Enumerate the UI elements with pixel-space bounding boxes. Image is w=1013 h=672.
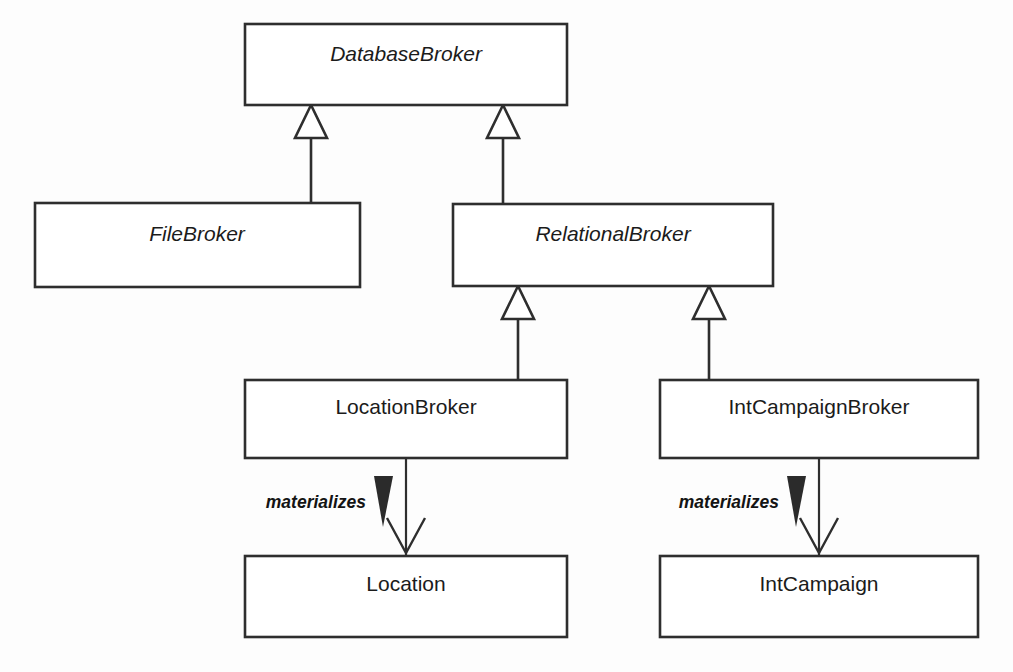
class-box-database-broker[interactable]: DatabaseBroker <box>245 24 567 105</box>
hollow-triangle-icon <box>295 105 327 138</box>
class-box-frame <box>453 204 773 286</box>
dependency-label: materializes <box>266 492 366 512</box>
class-name-label: IntCampaignBroker <box>729 395 910 418</box>
class-box-frame <box>35 203 360 287</box>
generalization-file-broker-to-database-broker[interactable] <box>295 105 327 203</box>
generalization-int-campaign-broker-to-relational-broker[interactable] <box>693 286 725 380</box>
class-box-file-broker[interactable]: FileBroker <box>35 203 360 287</box>
uml-diagram-svg: materializes materializes DatabaseBroker… <box>0 0 1013 672</box>
uml-class-diagram-canvas: materializes materializes DatabaseBroker… <box>0 0 1013 672</box>
hollow-triangle-icon <box>502 286 534 319</box>
hollow-triangle-icon <box>693 286 725 319</box>
hollow-triangle-icon <box>487 105 519 138</box>
class-box-location-broker[interactable]: LocationBroker <box>245 380 567 458</box>
class-name-label: DatabaseBroker <box>330 42 483 65</box>
class-box-frame <box>660 556 978 637</box>
class-box-int-campaign-broker[interactable]: IntCampaignBroker <box>660 380 978 458</box>
generalization-relational-broker-to-database-broker[interactable] <box>487 105 519 204</box>
class-name-label: RelationalBroker <box>535 222 691 245</box>
class-name-label: IntCampaign <box>759 572 878 595</box>
class-name-label: LocationBroker <box>335 395 476 418</box>
dependency-location-broker-materializes-location[interactable]: materializes <box>266 458 425 556</box>
class-box-frame <box>245 556 567 637</box>
generalization-location-broker-to-relational-broker[interactable] <box>502 286 534 380</box>
dependency-label: materializes <box>679 492 779 512</box>
class-box-location[interactable]: Location <box>245 556 567 637</box>
class-name-label: Location <box>366 572 445 595</box>
class-name-label: FileBroker <box>149 222 246 245</box>
filled-triangle-marker-icon <box>787 476 806 527</box>
dependency-int-campaign-broker-materializes-int-campaign[interactable]: materializes <box>679 458 838 556</box>
class-box-frame <box>245 380 567 458</box>
dependency-group: materializes materializes <box>266 458 838 556</box>
class-box-relational-broker[interactable]: RelationalBroker <box>453 204 773 286</box>
class-box-int-campaign[interactable]: IntCampaign <box>660 556 978 637</box>
filled-triangle-marker-icon <box>374 476 393 527</box>
class-box-frame <box>660 380 978 458</box>
